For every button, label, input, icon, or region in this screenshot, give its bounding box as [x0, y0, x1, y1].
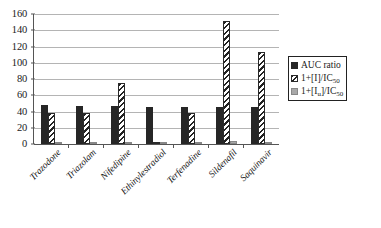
legend-swatch-icon	[291, 62, 298, 69]
y-tick-label: 40	[17, 106, 27, 117]
bar	[230, 141, 237, 144]
bar	[195, 142, 202, 144]
bar	[188, 113, 195, 144]
bar	[90, 142, 97, 144]
y-axis: 160140120100806040200	[0, 14, 31, 144]
y-tick-label: 0	[22, 139, 27, 150]
plot-area	[33, 14, 279, 144]
bar	[223, 21, 230, 145]
bar	[76, 106, 83, 144]
bar-group	[139, 14, 174, 144]
bar	[83, 113, 90, 144]
legend-entry: AUC ratio	[291, 59, 343, 72]
bar-group	[34, 14, 69, 144]
x-axis-label: Sildenafil	[207, 148, 239, 180]
y-tick-label: 140	[12, 25, 27, 36]
x-axis-label: Trazodone	[29, 148, 63, 182]
x-axis-labels: TrazodoneTriazolamNifedipineEthinylestra…	[33, 146, 279, 206]
bar-group	[69, 14, 104, 144]
bar-groups	[34, 14, 279, 144]
chart-legend: AUC ratio1+[I]/IC501+[Iu]/IC50	[288, 56, 347, 101]
bar	[125, 142, 132, 144]
bar	[258, 52, 265, 144]
legend-label: 1+[I]/IC50	[301, 74, 340, 84]
bar-group	[209, 14, 244, 144]
bar	[216, 107, 223, 144]
bar-group	[174, 14, 209, 144]
bar	[251, 107, 258, 144]
legend-label: AUC ratio	[301, 61, 341, 71]
bar	[55, 142, 62, 144]
legend-swatch-icon	[291, 75, 298, 82]
bar	[160, 142, 167, 144]
y-tick-label: 120	[12, 41, 27, 52]
legend-label: 1+[Iu]/IC50	[301, 87, 343, 97]
bar	[111, 106, 118, 144]
bar	[41, 105, 48, 144]
bar	[48, 113, 55, 144]
legend-entry: 1+[I]/IC50	[291, 72, 343, 85]
bar-group	[104, 14, 139, 144]
x-axis-label: Nifedipine	[100, 148, 134, 182]
bar	[146, 107, 153, 144]
bar	[265, 142, 272, 144]
y-tick-label: 60	[17, 90, 27, 101]
x-axis-label: Terfenadine	[166, 148, 204, 186]
x-axis-label: Triazolam	[65, 148, 98, 181]
bar-chart: 160140120100806040200 TrazodoneTriazolam…	[0, 0, 381, 228]
legend-swatch-icon	[291, 88, 298, 95]
y-tick-label: 20	[17, 123, 27, 134]
x-axis-label: Saquinavir	[239, 148, 274, 183]
bar-group	[244, 14, 279, 144]
y-tick-label: 160	[12, 9, 27, 20]
bar	[153, 142, 160, 144]
y-tick-label: 80	[17, 74, 27, 85]
legend-entry: 1+[Iu]/IC50	[291, 85, 343, 98]
bar	[181, 107, 188, 144]
y-tick-label: 100	[12, 58, 27, 69]
bar	[118, 83, 125, 144]
